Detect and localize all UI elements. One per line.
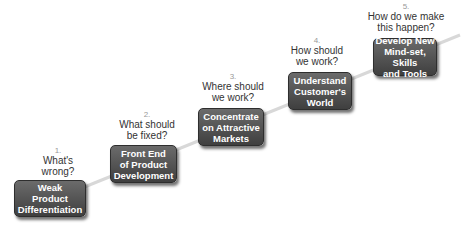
step-5-box: Develop New Mind-set, Skills and Tools xyxy=(373,38,437,76)
step-4-box: Understand Customer's World xyxy=(288,72,352,110)
step-1-question: 1. What's wrong? xyxy=(28,146,88,177)
step-4-number: 4. xyxy=(282,36,352,45)
step-1-box: Weak Product Differentiation xyxy=(14,180,86,217)
step-4-question: 4. How should we work? xyxy=(282,36,352,67)
step-3-number: 3. xyxy=(198,72,268,81)
step-1-number: 1. xyxy=(28,146,88,155)
step-2-number: 2. xyxy=(112,110,182,119)
step-2-box: Front End of Product Development xyxy=(110,145,177,183)
step-5-number: 5. xyxy=(366,2,446,11)
step-5-question: 5. How do we make this happen? xyxy=(366,2,446,33)
step-3-question: 3. Where should we work? xyxy=(198,72,268,103)
step-3-box: Concentrate on Attractive Markets xyxy=(198,108,264,146)
step-2-question: 2. What should be fixed? xyxy=(112,110,182,141)
